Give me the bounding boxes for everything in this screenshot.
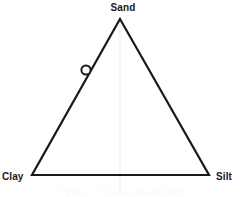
sample-point-marker[interactable] (81, 65, 90, 74)
vertex-label-clay: Clay (2, 171, 24, 182)
vertex-label-sand: Sand (101, 2, 145, 13)
figure-caption: Figure 1.5 Sand, silt and clay (0, 186, 243, 197)
ternary-triangle-svg (0, 0, 243, 197)
ternary-diagram-figure: Sand Clay Silt Figure 1.5 Sand, silt and… (0, 0, 243, 197)
vertex-label-silt: Silt (216, 171, 232, 182)
